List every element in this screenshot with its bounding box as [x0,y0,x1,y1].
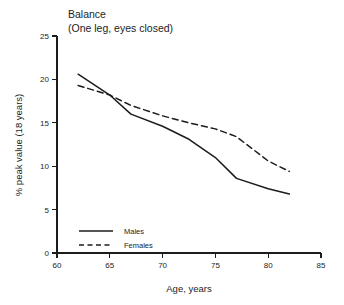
chart-legend: MalesFemales [79,227,153,250]
chart-title: Balance [68,8,106,20]
y-tick-label: 0 [45,249,50,258]
series-line-males [78,74,289,194]
x-tick-label: 80 [264,261,273,270]
x-tick-label: 70 [158,261,167,270]
balance-line-chart: Balance (One leg, eyes closed) Age, year… [0,0,344,305]
x-axis-title: Age, years [166,283,212,294]
y-axis-title: % peak value (18 years) [13,94,24,196]
series-group [78,74,289,194]
x-axis-ticks: 606570758085 [53,253,326,270]
y-tick-label: 20 [40,75,49,84]
legend-label-males: Males [124,227,144,236]
x-tick-label: 85 [317,261,326,270]
y-axis-ticks: 0510152025 [40,32,57,258]
x-tick-label: 75 [211,261,220,270]
x-tick-label: 65 [105,261,114,270]
chart-subtitle: (One leg, eyes closed) [68,22,173,34]
legend-label-females: Females [124,241,153,250]
y-tick-label: 25 [40,32,49,41]
series-line-females [78,85,289,171]
y-tick-label: 15 [40,119,49,128]
y-tick-label: 5 [45,206,50,215]
x-tick-label: 60 [53,261,62,270]
chart-figure: Balance (One leg, eyes closed) Age, year… [0,0,344,305]
y-tick-label: 10 [40,162,49,171]
